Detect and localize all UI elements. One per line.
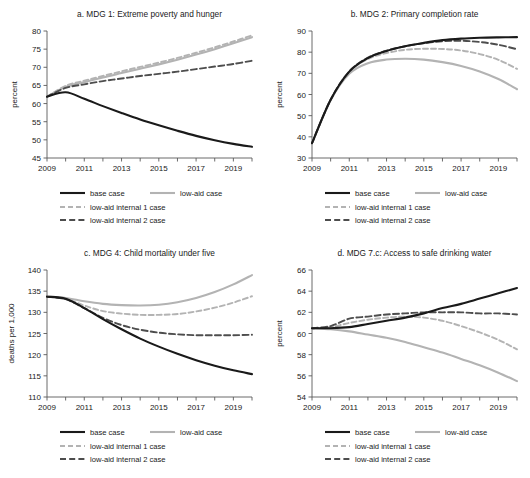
chart-b: b. MDG 2: Primary completion rate3040506…	[265, 0, 530, 239]
chart-d: d. MDG 7.c: Access to safe drinking wate…	[265, 239, 530, 478]
x-tick-label-a: 2011	[76, 164, 94, 173]
legend-item-low_aid_internal_1-d: low-aid internal 1 case	[325, 442, 431, 451]
legend-label-low_aid: low-aid case	[180, 189, 222, 198]
x-tick-label-d: 2015	[415, 403, 433, 412]
legend-label-low_aid: low-aid case	[445, 428, 487, 437]
legend-label-base_case: base case	[355, 189, 390, 198]
y-tick-label-b: 90	[297, 27, 306, 36]
y-tick-label-d: 56	[297, 372, 306, 381]
x-tick-label-b: 2015	[415, 164, 433, 173]
chart-panel-c: c. MDG 4: Child mortality under five1101…	[0, 239, 265, 478]
legend-item-base_case-a: base case	[60, 189, 125, 198]
y-tick-label-c: 130	[28, 308, 42, 317]
x-tick-label-d: 2017	[452, 403, 470, 412]
panel-title-c: c. MDG 4: Child mortality under five	[84, 248, 215, 258]
y-tick-label-b: 30	[297, 154, 306, 163]
y-tick-label-d: 62	[297, 308, 306, 317]
x-tick-label-a: 2009	[38, 164, 56, 173]
series-line-base_case-a	[47, 92, 252, 146]
y-tick-label-a: 75	[32, 45, 41, 54]
legend-item-low_aid_internal_2-c: low-aid internal 2 case	[60, 455, 166, 464]
y-axis-title-c: deaths per 1,000	[7, 303, 16, 364]
y-tick-label-b: 40	[297, 133, 306, 142]
x-tick-label-c: 2013	[113, 403, 131, 412]
legend-label-base_case: base case	[90, 189, 125, 198]
y-tick-label-a: 70	[32, 63, 41, 72]
legend-item-base_case-b: base case	[325, 189, 390, 198]
legend-label-low_aid_internal_1: low-aid internal 1 case	[355, 203, 431, 212]
x-tick-label-c: 2017	[187, 403, 205, 412]
chart-a: a. MDG 1: Extreme poverty and hunger4550…	[0, 0, 265, 239]
legend-item-low_aid_internal_2-a: low-aid internal 2 case	[60, 216, 166, 225]
legend-label-low_aid_internal_1: low-aid internal 1 case	[90, 203, 166, 212]
x-tick-label-a: 2013	[113, 164, 131, 173]
legend-label-low_aid_internal_2: low-aid internal 2 case	[355, 455, 431, 464]
x-tick-label-b: 2009	[303, 164, 321, 173]
legend-label-low_aid_internal_2: low-aid internal 2 case	[90, 216, 166, 225]
legend-label-low_aid: low-aid case	[180, 428, 222, 437]
y-tick-label-a: 45	[32, 154, 41, 163]
x-tick-label-c: 2009	[38, 403, 56, 412]
legend-item-base_case-c: base case	[60, 428, 125, 437]
legend-label-low_aid_internal_1: low-aid internal 1 case	[355, 442, 431, 451]
series-line-base_case-b	[312, 37, 517, 143]
y-axis-title-d: percent	[275, 319, 284, 346]
x-tick-label-a: 2017	[187, 164, 205, 173]
y-tick-label-c: 135	[28, 287, 42, 296]
legend-item-low_aid_internal_2-b: low-aid internal 2 case	[325, 216, 431, 225]
x-tick-label-b: 2011	[341, 164, 359, 173]
x-tick-label-c: 2011	[76, 403, 94, 412]
legend-item-low_aid_internal_1-b: low-aid internal 1 case	[325, 203, 431, 212]
x-tick-label-d: 2019	[489, 403, 507, 412]
legend-item-low_aid_internal_2-d: low-aid internal 2 case	[325, 455, 431, 464]
chart-panel-a: a. MDG 1: Extreme poverty and hunger4550…	[0, 0, 265, 239]
panel-title-b: b. MDG 2: Primary completion rate	[351, 9, 479, 19]
y-tick-label-a: 80	[32, 27, 41, 36]
y-axis-title-b: percent	[275, 80, 284, 107]
x-tick-label-b: 2017	[452, 164, 470, 173]
y-axis-title-a: percent	[10, 80, 19, 107]
y-tick-label-a: 50	[32, 136, 41, 145]
legend-label-base_case: base case	[90, 428, 125, 437]
series-line-low_aid-d	[312, 328, 517, 381]
x-tick-label-b: 2019	[489, 164, 507, 173]
y-tick-label-c: 120	[28, 351, 42, 360]
y-tick-label-b: 60	[297, 91, 306, 100]
y-tick-label-c: 110	[28, 393, 41, 402]
legend-label-low_aid_internal_2: low-aid internal 2 case	[355, 216, 431, 225]
series-line-base_case-d	[312, 288, 517, 328]
series-line-low_aid-a	[47, 37, 252, 97]
y-tick-label-c: 115	[28, 372, 41, 381]
x-tick-label-d: 2009	[303, 403, 321, 412]
y-tick-label-d: 54	[297, 393, 306, 402]
chart-c: c. MDG 4: Child mortality under five1101…	[0, 239, 265, 478]
y-tick-label-a: 65	[32, 81, 41, 90]
legend-item-low_aid-a: low-aid case	[150, 189, 222, 198]
legend-item-low_aid_internal_1-a: low-aid internal 1 case	[60, 203, 166, 212]
y-tick-label-d: 60	[297, 330, 306, 339]
y-tick-label-c: 140	[28, 266, 42, 275]
legend-label-low_aid_internal_2: low-aid internal 2 case	[90, 455, 166, 464]
y-tick-label-a: 60	[32, 100, 41, 109]
y-tick-label-d: 58	[297, 351, 306, 360]
chart-panel-b: b. MDG 2: Primary completion rate3040506…	[265, 0, 530, 239]
legend-label-base_case: base case	[355, 428, 390, 437]
x-tick-label-d: 2013	[378, 403, 396, 412]
x-tick-label-b: 2013	[378, 164, 396, 173]
panel-title-d: d. MDG 7.c: Access to safe drinking wate…	[337, 248, 491, 258]
legend-item-low_aid-d: low-aid case	[415, 428, 487, 437]
legend-label-low_aid_internal_1: low-aid internal 1 case	[90, 442, 166, 451]
y-tick-label-a: 55	[32, 118, 41, 127]
x-tick-label-c: 2019	[224, 403, 242, 412]
chart-panel-d: d. MDG 7.c: Access to safe drinking wate…	[265, 239, 530, 478]
legend-item-low_aid-b: low-aid case	[415, 189, 487, 198]
legend-item-low_aid_internal_1-c: low-aid internal 1 case	[60, 442, 166, 451]
y-tick-label-b: 70	[297, 69, 306, 78]
x-tick-label-a: 2015	[150, 164, 168, 173]
legend-label-low_aid: low-aid case	[445, 189, 487, 198]
x-tick-label-a: 2019	[224, 164, 242, 173]
x-tick-label-c: 2015	[150, 403, 168, 412]
y-tick-label-b: 50	[297, 112, 306, 121]
y-tick-label-d: 66	[297, 266, 306, 275]
series-line-low_aid_internal_1-b	[312, 49, 517, 143]
